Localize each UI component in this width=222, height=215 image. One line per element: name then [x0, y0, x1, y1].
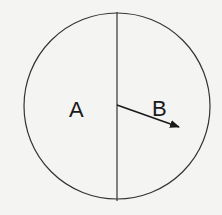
radius-arrow [117, 105, 179, 127]
circle-diagram: A B [0, 0, 222, 215]
region-label-b: B [152, 96, 167, 121]
region-label-a: A [69, 97, 84, 122]
